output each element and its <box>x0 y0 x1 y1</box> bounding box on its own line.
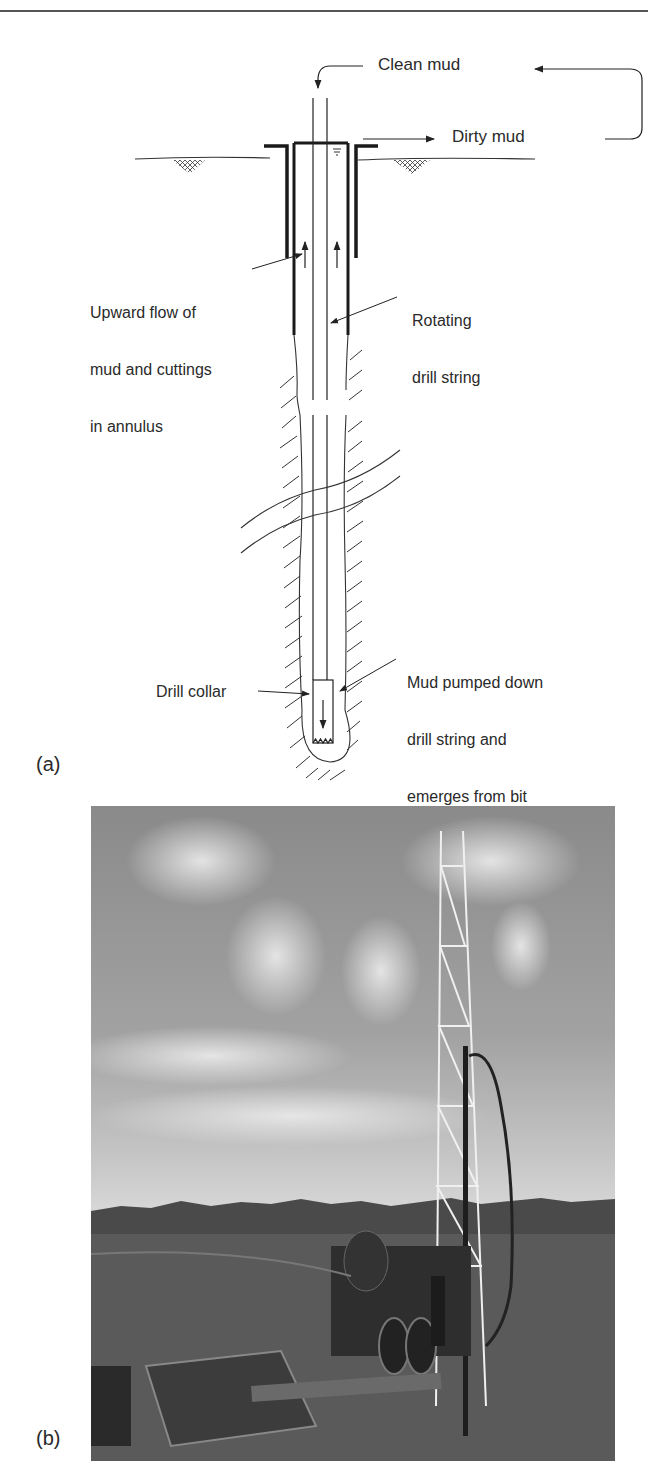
kelly-pipe <box>463 1046 468 1436</box>
upward-flow-arrows <box>305 242 337 268</box>
depth-break-symbol <box>241 450 400 553</box>
surface-casing <box>264 143 378 335</box>
upward-flow-line-1: Upward flow of <box>90 303 212 322</box>
mud-pumped-line-1: Mud pumped down <box>407 673 543 692</box>
mud-pumped-line-2: drill string and <box>407 730 543 749</box>
rotating-drill-string-label: Rotating drill string <box>412 273 480 406</box>
photo-scene <box>91 806 615 1461</box>
clean-mud-label: Clean mud <box>378 55 460 74</box>
mud-pumped-down-label: Mud pumped down drill string and emerges… <box>407 635 543 825</box>
ground-surface <box>135 157 535 174</box>
upward-flow-line-3: in annulus <box>90 417 212 436</box>
treeline <box>91 1198 615 1236</box>
upward-flow-line-2: mud and cuttings <box>90 360 212 379</box>
borehole-wall <box>294 335 350 762</box>
clouds <box>91 816 581 1146</box>
water-level-icon <box>333 149 341 155</box>
drill-truck <box>331 1231 471 1374</box>
drill-collar-label: Drill collar <box>156 682 226 701</box>
dirty-mud-label: Dirty mud <box>452 127 525 146</box>
drilling-rig-photo <box>91 806 615 1461</box>
mud-pumped-line-3: emerges from bit <box>407 787 543 806</box>
rock-hatching <box>280 350 363 780</box>
upward-flow-label: Upward flow of mud and cuttings in annul… <box>90 265 212 455</box>
panel-a-label: (a) <box>36 753 60 776</box>
drill-collar <box>313 680 333 743</box>
rotating-drill-string-line-1: Rotating <box>412 311 480 330</box>
rotating-drill-string-line-2: drill string <box>412 368 480 387</box>
panel-b-label: (b) <box>36 1427 60 1450</box>
person <box>431 1276 445 1346</box>
drill-string <box>313 98 327 680</box>
leader-lines <box>252 254 397 694</box>
